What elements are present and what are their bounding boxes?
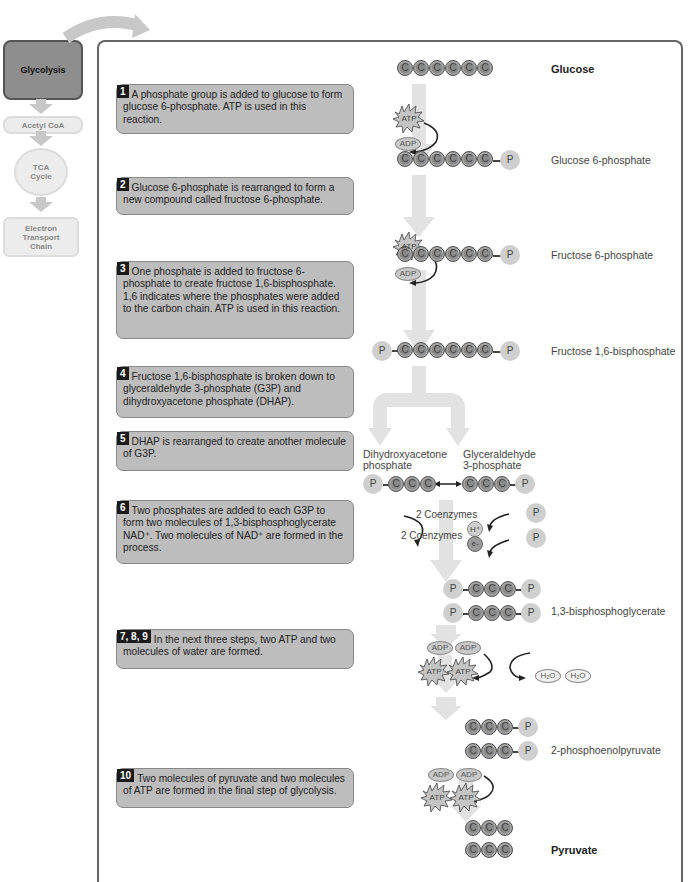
phosphate-group: P <box>526 503 546 523</box>
carbon-atom: C <box>497 820 513 836</box>
label-glucose-6-phosphate: Glucose 6-phosphate <box>551 154 651 166</box>
atp-molecule: ATP <box>422 785 452 811</box>
label-1-3-bisphosphoglycerate: 1,3-bisphosphoglycerate <box>551 605 665 617</box>
carbon-atom: C <box>468 581 484 597</box>
carbon-atom: C <box>397 342 413 358</box>
step-number: 3 <box>117 262 129 275</box>
phosphate-group: P <box>515 474 535 494</box>
step-6: 6Two phosphates are added to each G3P to… <box>116 500 354 564</box>
carbon-atom: C <box>477 60 493 76</box>
water-molecule: H₂O <box>535 669 561 683</box>
carbon-atom: C <box>429 246 445 262</box>
label-pyruvate: Pyruvate <box>551 844 597 856</box>
carbon-atom: C <box>462 476 478 492</box>
step-7-8-9: 7, 8, 9In the next three steps, two ATP … <box>116 629 354 669</box>
carbon-atom: C <box>497 743 513 759</box>
adp-molecule: ADP <box>427 641 453 655</box>
step-1: 1A phosphate group is added to glucose t… <box>116 84 354 134</box>
atp-label: ATP <box>448 659 478 685</box>
carbon-atom: C <box>481 719 497 735</box>
carbon-atom: C <box>413 342 429 358</box>
step-4: 4Fructose 1,6-bisphosphate is broken dow… <box>116 366 354 418</box>
label-g3p: Glyceraldehyde 3-phosphate <box>463 449 533 471</box>
atp-label: ATP <box>394 106 424 132</box>
step-text: Glucose 6-phosphate is rearranged to for… <box>123 182 334 205</box>
carbon-atom: C <box>397 60 413 76</box>
water-molecule: H₂O <box>565 669 591 683</box>
label-dhap: Dihydroxyacetone phosphate <box>363 449 443 471</box>
coenzymes-out-label: 2 Coenzymes <box>401 530 462 541</box>
step-number: 1 <box>117 85 129 98</box>
adp-molecule: ADP <box>395 267 421 281</box>
phosphate-group: P <box>521 603 541 623</box>
step-number: 10 <box>117 769 134 782</box>
phosphate-group: P <box>521 579 541 599</box>
carbon-atom: C <box>500 581 516 597</box>
carbon-atom: C <box>388 476 404 492</box>
carbon-atom: C <box>468 605 484 621</box>
carbon-atom: C <box>461 60 477 76</box>
step-number: 2 <box>117 178 129 191</box>
step-10: 10Two molecules of pyruvate and two mole… <box>116 768 354 808</box>
phosphate-group: P <box>372 341 392 361</box>
step-5: 5DHAP is rearranged to create another mo… <box>116 431 354 471</box>
carbon-atom: C <box>445 151 461 167</box>
step-number: 4 <box>117 367 129 380</box>
phosphate-group: P <box>518 741 538 761</box>
adp-molecule: ADP <box>395 137 421 151</box>
label-fructose-6-phosphate: Fructose 6-phosphate <box>551 249 653 261</box>
carbon-atom: C <box>445 342 461 358</box>
carbon-atom: C <box>461 151 477 167</box>
carbon-atom: C <box>413 60 429 76</box>
step-text: DHAP is rearranged to create another mol… <box>123 436 346 459</box>
electron: e- <box>467 536 483 552</box>
label-2-phosphoenolpyruvate: 2-phosphoenolpyruvate <box>551 744 661 756</box>
carbon-atom: C <box>445 60 461 76</box>
hydrogen-ion: H⁺ <box>467 521 483 537</box>
carbon-atom: C <box>477 246 493 262</box>
carbon-atom: C <box>481 842 497 858</box>
atp-label: ATP <box>419 659 449 685</box>
carbon-atom: C <box>465 743 481 759</box>
carbon-atom: C <box>465 842 481 858</box>
phosphate-group: P <box>526 528 546 548</box>
step-2: 2Glucose 6-phosphate is rearranged to fo… <box>116 177 354 215</box>
carbon-atom: C <box>481 820 497 836</box>
step-text: A phosphate group is added to glucose to… <box>123 89 342 125</box>
carbon-atom: C <box>465 719 481 735</box>
adp-molecule: ADP <box>428 768 454 782</box>
step-number: 7, 8, 9 <box>117 630 151 643</box>
atp-molecule: ATP <box>394 106 424 132</box>
phosphate-group: P <box>443 603 463 623</box>
step-text: One phosphate is added to fructose 6-pho… <box>123 266 340 314</box>
coenzymes-in-label: 2 Coenzymes <box>416 509 477 520</box>
phosphate-group: P <box>443 579 463 599</box>
atp-label: ATP <box>394 234 424 260</box>
adp-molecule: ADP <box>455 641 481 655</box>
carbon-atom: C <box>413 151 429 167</box>
carbon-atom: C <box>465 820 481 836</box>
carbon-atom: C <box>478 476 494 492</box>
carbon-atom: C <box>397 151 413 167</box>
step-3: 3One phosphate is added to fructose 6-ph… <box>116 261 354 339</box>
carbon-atom: C <box>494 476 510 492</box>
step-number: 6 <box>117 501 129 514</box>
atp-molecule: ATP <box>394 234 424 260</box>
carbon-atom: C <box>445 246 461 262</box>
step-text: Two phosphates are added to each G3P to … <box>123 505 343 553</box>
step-text: Fructose 1,6-bisphosphate is broken down… <box>123 371 335 407</box>
carbon-atom: C <box>500 605 516 621</box>
atp-molecule: ATP <box>451 785 481 811</box>
phosphate-group: P <box>518 717 538 737</box>
phosphate-group: P <box>500 245 520 265</box>
phosphate-group: P <box>363 474 383 494</box>
carbon-atom: C <box>484 605 500 621</box>
carbon-atom: C <box>477 151 493 167</box>
carbon-atom: C <box>497 842 513 858</box>
carbon-atom: C <box>497 719 513 735</box>
atp-molecule: ATP <box>448 659 478 685</box>
phosphate-group: P <box>500 341 520 361</box>
atp-label: ATP <box>451 785 481 811</box>
carbon-atom: C <box>484 581 500 597</box>
carbon-atom: C <box>429 342 445 358</box>
